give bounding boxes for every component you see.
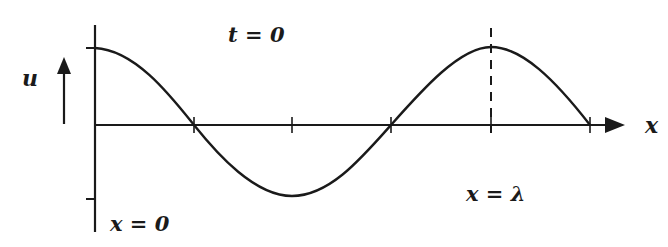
wavelength-label: x = λ bbox=[465, 181, 525, 206]
x-axis-label: x bbox=[644, 112, 659, 138]
x-axis-arrow-icon bbox=[605, 117, 625, 133]
u-arrow-icon bbox=[57, 57, 71, 74]
origin-label: x = 0 bbox=[109, 211, 170, 236]
wave-diagram: t = 0 u x x = 0 x = λ bbox=[0, 0, 668, 247]
u-axis-label: u bbox=[22, 65, 38, 91]
time-label: t = 0 bbox=[228, 22, 285, 47]
wave-curve bbox=[95, 47, 590, 196]
